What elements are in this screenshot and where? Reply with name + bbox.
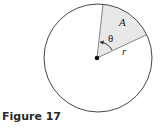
radius-label: r [122,45,127,57]
area-label: A [118,16,126,28]
angle-label: θ [108,32,113,44]
center-point [95,56,100,61]
figure-caption: Figure 17 [2,110,61,123]
